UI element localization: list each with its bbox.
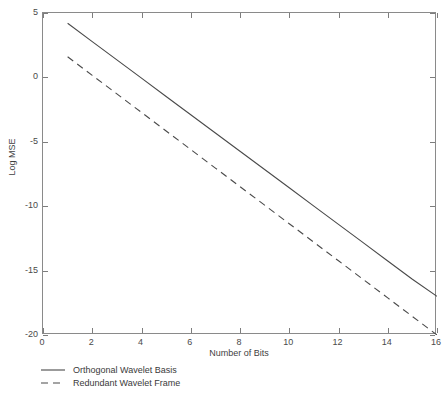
- x-tick-mark: [388, 328, 389, 333]
- y-tick-mark: [43, 335, 48, 336]
- y-tick-mark: [430, 271, 435, 272]
- legend-item: Redundant Wavelet Frame: [40, 377, 290, 389]
- x-tick-label: 14: [382, 337, 392, 348]
- y-axis-label: Log MSE: [7, 127, 17, 187]
- x-tick-label: 0: [39, 337, 44, 348]
- x-tick-mark: [289, 328, 290, 333]
- y-tick-mark: [430, 206, 435, 207]
- x-axis-label: Number of Bits: [42, 348, 436, 358]
- series-layer: [43, 13, 437, 335]
- y-tick-mark: [430, 335, 435, 336]
- x-tick-label: 12: [332, 337, 342, 348]
- y-tick-mark: [430, 77, 435, 78]
- legend-label: Redundant Wavelet Frame: [73, 378, 180, 388]
- y-tick-mark: [43, 206, 48, 207]
- x-tick-mark: [92, 13, 93, 18]
- legend-item: Orthogonal Wavelet Basis: [40, 364, 290, 376]
- x-tick-mark: [289, 13, 290, 18]
- x-tick-label: 6: [187, 337, 192, 348]
- x-tick-mark: [142, 328, 143, 333]
- series-line: [68, 23, 437, 296]
- x-tick-mark: [388, 13, 389, 18]
- y-tick-mark: [430, 13, 435, 14]
- plot-area: [42, 12, 436, 334]
- series-group: [68, 23, 437, 335]
- chart-legend: Orthogonal Wavelet Basis Redundant Wavel…: [40, 364, 290, 390]
- y-tick-mark: [43, 13, 48, 14]
- x-tick-label: 4: [138, 337, 143, 348]
- series-line: [68, 57, 437, 335]
- y-tick-mark: [43, 142, 48, 143]
- y-tick-label: -5: [30, 136, 38, 146]
- y-tick-label: -15: [25, 265, 38, 275]
- x-tick-mark: [437, 13, 438, 18]
- x-tick-label: 16: [431, 337, 441, 348]
- legend-label: Orthogonal Wavelet Basis: [73, 365, 177, 375]
- x-tick-mark: [437, 328, 438, 333]
- x-tick-mark: [191, 13, 192, 18]
- y-tick-label: -10: [25, 200, 38, 210]
- x-tick-mark: [92, 328, 93, 333]
- x-tick-label: 10: [283, 337, 293, 348]
- x-tick-mark: [339, 13, 340, 18]
- x-tick-mark: [142, 13, 143, 18]
- chart-figure: 0246810121416 50-5-10-15-20 Number of Bi…: [0, 0, 447, 398]
- y-tick-mark: [43, 77, 48, 78]
- x-tick-mark: [191, 328, 192, 333]
- x-tick-mark: [339, 328, 340, 333]
- y-tick-label: -20: [25, 329, 38, 339]
- y-tick-label: 0: [33, 71, 38, 81]
- y-tick-mark: [430, 142, 435, 143]
- x-tick-mark: [43, 328, 44, 333]
- x-tick-label: 8: [236, 337, 241, 348]
- x-tick-label: 2: [89, 337, 94, 348]
- y-tick-label: 5: [33, 7, 38, 17]
- y-tick-mark: [43, 271, 48, 272]
- x-tick-mark: [240, 328, 241, 333]
- legend-swatch-solid: [40, 365, 66, 375]
- x-tick-mark: [240, 13, 241, 18]
- legend-swatch-dashed: [40, 378, 66, 388]
